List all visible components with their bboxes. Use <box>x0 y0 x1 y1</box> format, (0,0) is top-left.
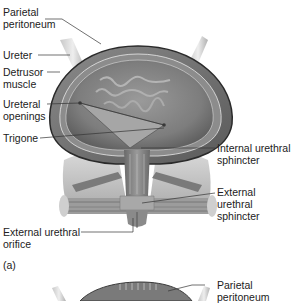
label-external-urethral-sphincter: External urethral sphincter <box>217 186 293 222</box>
panel-b-preview <box>52 282 210 301</box>
external-sphincter-band <box>120 196 154 210</box>
label-parietal-peritoneum: Parietal peritoneum <box>3 6 56 30</box>
panel-a-label: (a) <box>3 259 16 271</box>
label-external-urethral-orifice: External urethral orifice <box>3 226 80 250</box>
label-ureter: Ureter <box>3 49 32 61</box>
leader-external-orifice <box>81 218 133 232</box>
label-trigone: Trigone <box>3 132 38 144</box>
label-ureteral-openings: Ureteral openings <box>3 98 46 122</box>
urethra <box>120 150 154 228</box>
label-internal-urethral-sphincter: Internal urethral sphincter <box>217 142 291 166</box>
label-detrusor-muscle: Detrusor muscle <box>3 66 43 90</box>
label-parietal-peritoneum-b: Parietal peritoneum <box>217 279 270 303</box>
